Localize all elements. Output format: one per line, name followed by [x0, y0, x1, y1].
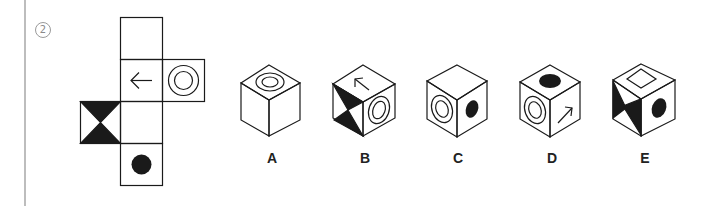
arrow-left-icon: [131, 73, 152, 89]
option-c-label: C: [448, 150, 468, 166]
hourglass-icon: [81, 102, 121, 144]
black-dot-icon: [132, 155, 152, 175]
option-e-label: E: [635, 150, 655, 166]
cube-net: [81, 18, 205, 186]
hourglass-icon: [333, 84, 363, 136]
option-d-cube[interactable]: [520, 65, 580, 137]
concentric-circles-icon: [169, 66, 199, 96]
net-face-middle-blank: [121, 102, 163, 144]
arrow-icon: [558, 107, 572, 123]
square-icon: [627, 69, 656, 88]
option-c-cube[interactable]: [427, 65, 487, 137]
net-face-top-blank: [121, 18, 163, 60]
black-dot-icon: [649, 96, 669, 120]
concentric-circles-icon: [256, 73, 284, 91]
arrow-icon: [355, 78, 369, 90]
option-a-label: A: [262, 150, 282, 166]
black-dot-icon: [539, 74, 561, 88]
option-b-cube[interactable]: [333, 65, 395, 136]
black-dot-icon: [463, 98, 480, 119]
option-a-cube[interactable]: [241, 65, 300, 136]
option-b-label: B: [355, 150, 375, 166]
option-e-cube[interactable]: [613, 64, 675, 136]
puzzle-figure: [0, 0, 707, 206]
option-d-label: D: [542, 150, 562, 166]
